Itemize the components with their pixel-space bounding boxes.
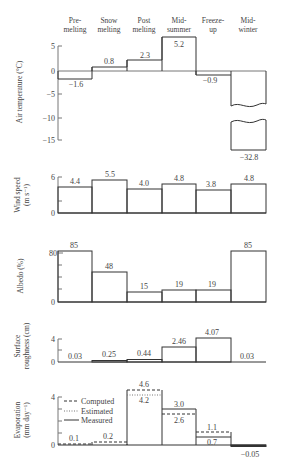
col-header-6-line1: Mid- (241, 16, 257, 25)
value-label: 19 (175, 280, 183, 289)
value-label: 15 (140, 282, 148, 291)
value-label: −0.9 (203, 76, 218, 85)
value-label: 3.0 (174, 400, 184, 409)
bar-albedo-freezeup (196, 290, 231, 302)
legend: Computed Estimated Measured (64, 397, 114, 425)
ylabel-albedo: Albedo (%) (16, 258, 25, 294)
ytick-label: 6 (51, 173, 55, 182)
midwinter-bar-bottom (231, 119, 266, 150)
ylabel-wind-speed-units: (m s⁻¹) (22, 184, 31, 206)
legend-label-estimated: Estimated (81, 407, 113, 416)
col-header-4-line1: Mid- (172, 16, 188, 25)
value-label: 0.03 (68, 352, 82, 361)
value-label: 2.46 (172, 337, 186, 346)
value-label: 85 (70, 241, 78, 250)
value-label: 0.03 (240, 352, 254, 361)
ytick-label: 0 (51, 358, 55, 367)
ytick-label: 80 (49, 249, 57, 258)
col-header-6-line2: winter (238, 25, 258, 34)
ytick-label: 0 (51, 441, 55, 450)
ytick-label: 4 (51, 393, 55, 402)
col-header-5-line1: Freeze- (202, 16, 225, 25)
col-header-4-line2: summer (167, 25, 192, 34)
value-label: 4.2 (139, 396, 149, 405)
value-label: 5.2 (174, 40, 184, 49)
col-header-3-line1: Post (138, 16, 152, 25)
ytick-label: 0 (51, 67, 55, 76)
bar-roughness-freezeup (196, 338, 231, 362)
ylabel-air-temperature: Air temperature (°C) (15, 60, 24, 123)
value-label: 0.2 (103, 432, 113, 441)
value-label: 4.6 (139, 380, 149, 389)
ylabel-evaporation-units: (mm day⁻¹) (22, 402, 31, 438)
col-header-2-line2: melting (98, 25, 121, 34)
col-header-2-line1: Snow (100, 16, 118, 25)
bar-wind-premelting (58, 187, 92, 213)
col-header-1-line1: Pre- (69, 16, 82, 25)
value-label: 1.1 (207, 423, 217, 432)
col-header-3-line2: melting (133, 25, 156, 34)
value-label: 4.8 (174, 174, 184, 183)
ytick-label: 0 (51, 209, 55, 218)
midwinter-bar-top (231, 71, 266, 107)
ytick-label: 4 (51, 335, 55, 344)
legend-label-computed: Computed (81, 397, 114, 406)
bar-albedo-postmelting (127, 292, 162, 302)
bar-albedo-midsummer (162, 290, 196, 302)
value-label: −1.6 (69, 80, 84, 89)
bar-wind-snowmelting (92, 180, 127, 213)
value-label: 0.8 (104, 57, 114, 66)
panel-wind-speed: Wind speed (m s⁻¹) 6 0 4.4 5.5 4.0 4.8 3… (13, 170, 266, 218)
value-label: 0.1 (69, 434, 79, 443)
bar-wind-freezeup (196, 190, 231, 213)
value-label: 4.8 (244, 174, 254, 183)
value-label: 19 (208, 280, 216, 289)
ytick-label: −10 (42, 114, 55, 123)
value-label: 4.0 (139, 179, 149, 188)
value-label: 85 (244, 241, 252, 250)
ylabel-surface-roughness-units: roughness (cm) (22, 322, 31, 369)
panel-albedo: Albedo (%) 80 0 85 48 15 19 19 85 (16, 241, 266, 307)
bar-roughness-snowmelting (92, 361, 127, 363)
ytick-label: −15 (42, 136, 55, 145)
column-headers: Pre- melting Snow melting Post melting M… (64, 16, 259, 34)
value-label: 4.07 (205, 328, 219, 337)
ylabel-evaporation: Evaporation (13, 401, 22, 438)
col-header-5-line2: up (209, 25, 217, 34)
value-label: 0.44 (137, 349, 151, 358)
bar-wind-postmelting (127, 189, 162, 213)
legend-label-measured: Measured (81, 416, 113, 425)
ylabel-surface-roughness: Surface (13, 334, 22, 358)
panel-air-temperature: Air temperature (°C) 5 0 −5 −10 −15 −1 (15, 37, 266, 162)
panel-surface-roughness: Surface roughness (cm) 4 0 0.03 0.25 0.4… (13, 322, 266, 369)
value-label: 4.4 (70, 177, 80, 186)
bar-roughness-postmelting (127, 360, 162, 363)
bar-albedo-midwinter (231, 251, 266, 302)
panel-evaporation: Evaporation (mm day⁻¹) 4 0 Computed Esti… (13, 380, 266, 459)
value-label: 0.25 (102, 350, 116, 359)
value-label: 0.7 (207, 438, 217, 447)
bar-wind-midwinter (231, 184, 266, 213)
ytick-label: −5 (46, 90, 55, 99)
value-label: −32.8 (240, 153, 259, 162)
value-label: 48 (105, 262, 113, 271)
bar-albedo-premelting (58, 251, 92, 302)
bar-wind-midsummer (162, 184, 196, 213)
value-label: 5.5 (105, 170, 115, 179)
multi-panel-bar-figure: Pre- melting Snow melting Post melting M… (0, 0, 281, 465)
value-label: 3.8 (206, 180, 216, 189)
value-label: −0.05 (241, 450, 260, 459)
ytick-label: 0 (51, 298, 55, 307)
ytick-label: 5 (51, 42, 55, 51)
bar-albedo-snowmelting (92, 272, 127, 302)
col-header-1-line2: melting (64, 25, 87, 34)
bar-roughness-midsummer (162, 347, 196, 362)
ylabel-wind-speed: Wind speed (13, 177, 22, 213)
bar-evap-midwinter-measured (231, 445, 266, 447)
value-label: 2.6 (174, 416, 184, 425)
value-label: 2.3 (140, 51, 150, 60)
